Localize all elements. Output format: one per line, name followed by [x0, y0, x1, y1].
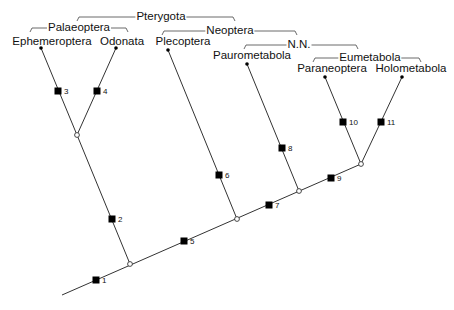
marker-number-5: 5 [190, 238, 194, 246]
holometabola-tip-dot [400, 75, 404, 79]
marker-number-11: 11 [387, 119, 395, 127]
apomorphy-marker-9 [328, 175, 335, 182]
taxon-label-holometabola: Holometabola [376, 63, 447, 75]
taxon-label-ephemeroptera: Ephemeroptera [12, 36, 91, 48]
marker-number-1: 1 [102, 277, 106, 285]
apomorphy-marker-4 [94, 88, 101, 95]
apomorphy-marker-1 [93, 277, 100, 284]
group-label-pterygota: Pterygota [135, 11, 186, 23]
apomorphy-marker-2 [109, 216, 116, 223]
marker-number-7: 7 [275, 202, 279, 210]
branch-plecoptera [168, 50, 237, 219]
marker-number-9: 9 [337, 175, 341, 183]
eumetabola-node [359, 162, 364, 167]
marker-number-10: 10 [349, 119, 358, 127]
neoptera-node [235, 217, 240, 222]
apomorphy-marker-7 [266, 202, 273, 209]
marker-number-2: 2 [118, 216, 122, 224]
apomorphy-marker-11 [378, 119, 385, 126]
backbone-line [62, 164, 361, 295]
apomorphy-marker-6 [216, 172, 223, 179]
marker-number-4: 4 [103, 88, 107, 96]
branch-palaeoptera [77, 135, 130, 264]
apomorphy-marker-10 [340, 119, 347, 126]
apomorphy-marker-3 [55, 88, 62, 95]
taxon-label-paurometabola: Paurometabola [213, 50, 291, 62]
branch-paurometabola [247, 64, 299, 191]
marker-number-8: 8 [288, 145, 292, 153]
taxon-label-odonata: Odonata [100, 36, 144, 48]
marker-number-3: 3 [64, 88, 68, 96]
group-label-eumetabola-group: Eumetabola [338, 52, 401, 64]
paraneoptera-tip-dot [323, 75, 327, 79]
apomorphy-marker-8 [279, 145, 286, 152]
marker-number-6: 6 [225, 172, 229, 180]
root-node [128, 262, 133, 267]
group-label-neoptera-group: Neoptera [205, 25, 254, 37]
plecoptera-tip-dot [166, 48, 170, 52]
paurometabola-tip-dot [245, 62, 249, 66]
taxon-label-paraneoptera: Paraneoptera [297, 63, 367, 75]
taxon-label-plecoptera: Plecoptera [156, 36, 211, 48]
apomorphy-marker-5 [181, 238, 188, 245]
group-label-palaeoptera-group: Palaeoptera [47, 22, 111, 34]
group-label-nn-group: N.N. [287, 39, 312, 51]
palaeoptera-node [75, 133, 80, 138]
nn-node [297, 189, 302, 194]
